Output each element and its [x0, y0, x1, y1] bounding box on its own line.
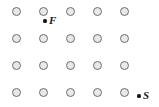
point-f-dot	[43, 19, 46, 22]
lattice-node	[39, 34, 48, 43]
lattice-node	[12, 61, 21, 70]
lattice-node	[120, 7, 129, 16]
lattice-node	[12, 34, 21, 43]
lattice-node	[39, 61, 48, 70]
diagram-canvas: FS	[0, 0, 159, 107]
point-f-label: F	[49, 15, 56, 26]
point-s-dot	[137, 94, 140, 97]
point-s-label: S	[143, 90, 149, 101]
lattice-node	[93, 7, 102, 16]
lattice-node	[12, 7, 21, 16]
lattice-node	[120, 34, 129, 43]
lattice-node	[66, 61, 75, 70]
lattice-node	[39, 7, 48, 16]
lattice-node	[120, 88, 129, 97]
lattice-node	[12, 88, 21, 97]
lattice-node	[120, 61, 129, 70]
lattice-node	[93, 88, 102, 97]
lattice-node	[93, 34, 102, 43]
lattice-node	[66, 34, 75, 43]
lattice-node	[66, 88, 75, 97]
lattice-node	[66, 7, 75, 16]
lattice-node	[39, 88, 48, 97]
lattice-node	[93, 61, 102, 70]
